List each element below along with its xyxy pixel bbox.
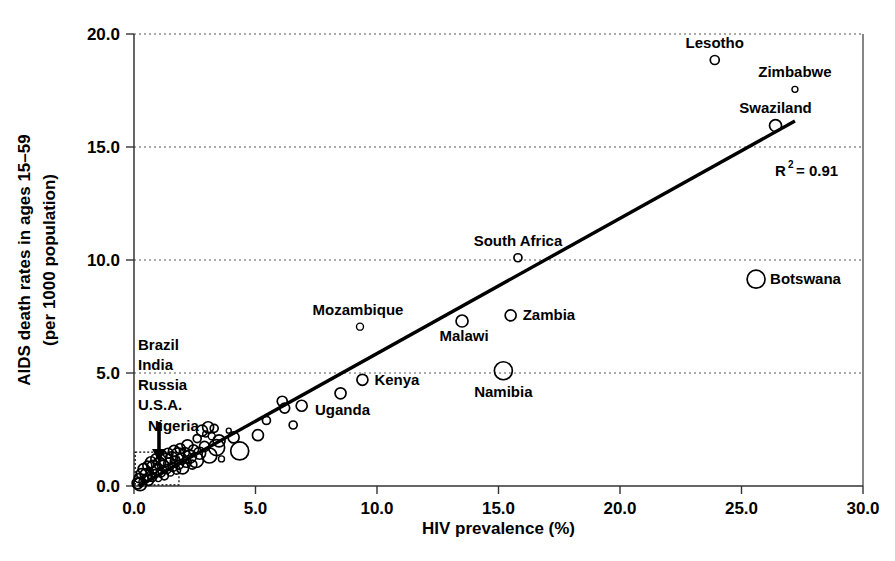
callout-country-russia: Russia	[138, 376, 188, 393]
data-point-kenya	[357, 374, 368, 385]
data-point-malawi	[456, 315, 468, 327]
y-axis-title-line2: (per 1000 population)	[40, 174, 59, 346]
y-tick-label-1: 5.0	[96, 364, 120, 383]
data-point-namibia	[494, 362, 512, 380]
point-label-swaziland: Swaziland	[739, 99, 812, 116]
regression-line-group	[139, 121, 795, 486]
x-tick-label-0: 0.0	[122, 499, 146, 518]
point-label-botswana: Botswana	[770, 270, 842, 287]
r2-base: R	[775, 162, 786, 179]
x-tick-label-5: 25.0	[725, 499, 758, 518]
r2-value: = 0.91	[796, 162, 838, 179]
x-tick-label-4: 20.0	[603, 499, 636, 518]
regression-line	[139, 121, 795, 486]
data-point	[296, 400, 307, 411]
x-tick-label-3: 15.0	[482, 499, 515, 518]
point-label-zambia: Zambia	[523, 306, 576, 323]
point-label-mozambique: Mozambique	[313, 301, 404, 318]
point-label-zimbabwe: Zimbabwe	[758, 63, 831, 80]
x-tick-label-1: 5.0	[244, 499, 268, 518]
callout-country-u-s-a-: U.S.A.	[138, 396, 182, 413]
point-label-lesotho: Lesotho	[686, 34, 744, 51]
y-tick-label-3: 15.0	[87, 138, 120, 157]
scatter-plot: 0.05.010.015.020.025.030.0 0.05.010.015.…	[0, 0, 895, 561]
data-point-south-africa	[514, 254, 522, 262]
y-tick-label-4: 20.0	[87, 25, 120, 44]
data-point	[218, 456, 224, 462]
data-point-mozambique	[356, 323, 363, 330]
point-label-nigeria: Nigeria	[148, 417, 200, 434]
x-axis-title: HIV prevalence (%)	[422, 519, 575, 538]
r2-annotation: R2= 0.91	[775, 159, 838, 179]
y-axis-title-line1: AIDS death rates in ages 15–59	[15, 134, 34, 385]
y-tick-label-2: 10.0	[87, 251, 120, 270]
y-tick-labels: 0.05.010.015.020.0	[87, 25, 120, 496]
data-point	[252, 430, 263, 441]
gridlines-group	[134, 34, 863, 373]
callout-country-brazil: Brazil	[138, 336, 179, 353]
callout-country-india: India	[138, 356, 174, 373]
x-tick-label-6: 30.0	[846, 499, 879, 518]
data-point-uganda	[335, 388, 346, 399]
r2-exponent: 2	[788, 159, 794, 170]
figure-caption	[0, 549, 895, 561]
x-tick-label-2: 10.0	[360, 499, 393, 518]
x-tick-labels: 0.05.010.015.020.025.030.0	[122, 499, 879, 518]
point-label-kenya: Kenya	[374, 371, 420, 388]
data-point	[289, 421, 297, 429]
data-point	[231, 442, 249, 460]
point-label-malawi: Malawi	[439, 327, 488, 344]
point-label-south-africa: South Africa	[474, 232, 563, 249]
figure-root: 0.05.010.015.020.025.030.0 0.05.010.015.…	[0, 0, 895, 561]
point-label-namibia: Namibia	[474, 383, 533, 400]
point-label-uganda: Uganda	[315, 401, 371, 418]
data-point-nigeria	[226, 428, 231, 433]
data-point-botswana	[747, 270, 765, 288]
data-points-group	[132, 55, 798, 490]
data-point-zimbabwe	[792, 86, 798, 92]
data-point-zambia	[505, 310, 516, 321]
y-tick-label-0: 0.0	[96, 477, 120, 496]
data-point-lesotho	[710, 55, 719, 64]
